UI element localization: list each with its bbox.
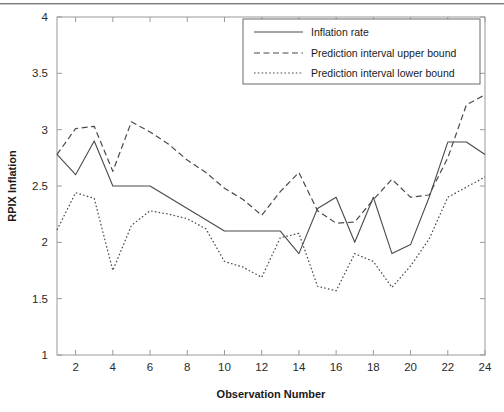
x-tick-label: 22 — [441, 361, 454, 373]
x-tick-label: 8 — [184, 361, 190, 373]
x-axis-tick-labels: 24681012141618202224 — [72, 361, 492, 373]
y-tick-label: 1 — [42, 349, 48, 361]
data-series-group — [57, 95, 485, 291]
inflation-forecast-chart: 24681012141618202224 11.522.533.54 Obser… — [0, 0, 504, 412]
x-tick-label: 18 — [367, 361, 380, 373]
y-tick-label: 1.5 — [32, 293, 48, 305]
legend-label: Prediction interval lower bound — [311, 67, 455, 79]
y-axis-tick-labels: 11.522.533.54 — [32, 11, 49, 361]
y-tick-label: 2.5 — [32, 180, 48, 192]
x-axis-title: Observation Number — [217, 388, 327, 400]
x-tick-label: 6 — [147, 361, 153, 373]
series-line-solid — [57, 141, 485, 254]
y-tick-label: 2 — [42, 236, 48, 248]
x-tick-label: 12 — [255, 361, 268, 373]
x-tick-label: 14 — [293, 361, 306, 373]
chart-legend: Inflation ratePrediction interval upper … — [243, 19, 480, 84]
x-tick-label: 20 — [404, 361, 417, 373]
legend-label: Prediction interval upper bound — [311, 47, 457, 59]
x-tick-label: 4 — [110, 361, 117, 373]
x-tick-label: 16 — [330, 361, 343, 373]
y-tick-label: 3.5 — [32, 67, 48, 79]
legend-label: Inflation rate — [311, 26, 369, 38]
y-axis-title: RPIX Inflation — [6, 150, 18, 222]
series-line-dotted — [57, 177, 485, 291]
chart-page: 24681012141618202224 11.522.533.54 Obser… — [0, 0, 504, 412]
y-tick-label: 3 — [42, 124, 48, 136]
series-line-dashed — [57, 95, 485, 223]
x-tick-label: 10 — [218, 361, 231, 373]
y-tick-label: 4 — [42, 11, 49, 23]
x-tick-label: 24 — [479, 361, 492, 373]
x-tick-label: 2 — [72, 361, 78, 373]
